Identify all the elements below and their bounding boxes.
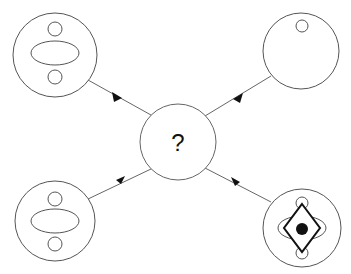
node-bottom-right [263,189,341,267]
center-node: ? [140,104,216,180]
diagram-canvas: ? [0,0,351,274]
edge-bottom-left [88,169,151,199]
edge-top-left [88,80,151,115]
arrowhead-icon [116,176,125,184]
edge-bottom-right [205,168,271,202]
edge-top-right [205,76,271,116]
arrowhead-icon [112,92,122,102]
filled-dot-icon [296,223,308,235]
node-top-left [13,13,97,97]
node-top-right [263,13,339,89]
arrowhead-icon [231,177,240,186]
center-node-label: ? [171,129,184,156]
node-bottom-left [15,181,95,261]
